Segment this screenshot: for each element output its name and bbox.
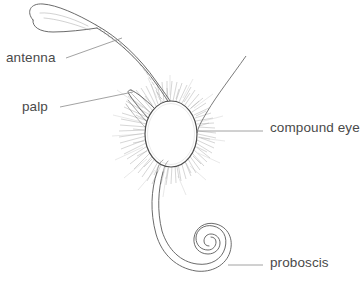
label-antenna: antenna: [6, 51, 56, 65]
proboscis-shape: [152, 160, 231, 271]
leader-antenna: [66, 38, 122, 58]
butterfly-head-diagram: antenna palp compound eye proboscis: [0, 0, 362, 297]
label-proboscis: proboscis: [270, 256, 329, 270]
label-palp: palp: [22, 100, 48, 114]
head-outline: [197, 56, 246, 133]
compound-eye-shape: [145, 101, 197, 167]
leader-palp: [60, 92, 133, 107]
diagram-canvas: [0, 0, 362, 297]
label-compound-eye: compound eye: [270, 121, 360, 135]
